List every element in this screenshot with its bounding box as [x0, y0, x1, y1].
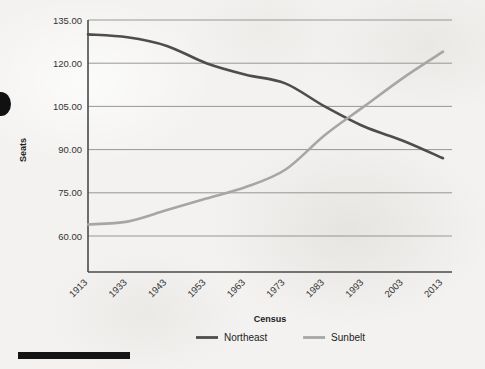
- y-tick-label: 105.00: [53, 101, 82, 112]
- x-tick-label: 2013: [422, 277, 445, 300]
- x-tick-label: 1913: [67, 277, 90, 300]
- x-tick-label: 1953: [185, 277, 208, 300]
- legend-label-northeast: Northeast: [224, 332, 268, 343]
- x-tick-label: 1993: [343, 277, 366, 300]
- axes-group: [88, 20, 452, 272]
- gridlines-group: [88, 20, 452, 236]
- y-axis-title: Seats: [18, 138, 28, 162]
- y-tick-label: 135.00: [53, 15, 82, 26]
- legend-label-sunbelt: Sunbelt: [331, 332, 365, 343]
- y-tick-label: 90.00: [58, 144, 82, 155]
- x-axis-title: Census: [254, 314, 287, 324]
- chart-svg: 135.00120.00105.0090.0075.0060.00 191319…: [0, 0, 485, 369]
- x-tick-label: 1933: [106, 277, 129, 300]
- page-bottom-black-bar: [18, 352, 130, 359]
- series-line-northeast: [88, 34, 443, 158]
- line-chart: 135.00120.00105.0090.0075.0060.00 191319…: [0, 0, 485, 369]
- x-tick-labels-group: 1913193319431953196319731983199320032013: [67, 277, 445, 300]
- y-tick-label: 120.00: [53, 58, 82, 69]
- y-tick-label: 75.00: [58, 187, 82, 198]
- y-tick-labels-group: 135.00120.00105.0090.0075.0060.00: [53, 15, 82, 242]
- x-tick-label: 1973: [264, 277, 287, 300]
- x-tick-label: 1943: [146, 277, 169, 300]
- x-tick-label: 1983: [303, 277, 326, 300]
- legend: NortheastSunbelt: [196, 332, 365, 343]
- y-tick-label: 60.00: [58, 231, 82, 242]
- x-tick-label: 1963: [224, 277, 247, 300]
- x-tick-label: 2003: [382, 277, 405, 300]
